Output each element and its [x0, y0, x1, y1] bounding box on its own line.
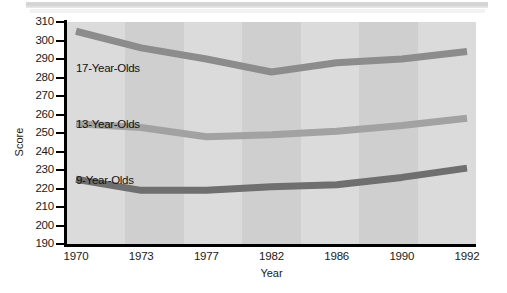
y-axis-tick [56, 77, 65, 79]
x-axis-title: Year [67, 267, 476, 279]
y-axis-tick [56, 114, 65, 116]
y-axis-tick [56, 58, 65, 60]
y-axis-tick-label: 280 [26, 71, 54, 83]
y-axis-tick-label: 250 [26, 126, 54, 138]
y-axis-tick [56, 151, 65, 153]
y-axis-tick-label: 260 [26, 108, 54, 120]
series-lines [67, 22, 476, 244]
y-axis-tick-label: 190 [26, 237, 54, 249]
y-axis-tick-label: 270 [26, 89, 54, 101]
x-axis-tick-label: 1990 [379, 250, 425, 262]
y-axis-tick-label: 230 [26, 163, 54, 175]
x-axis-tick-label: 1986 [314, 250, 360, 262]
y-axis-tick-label: 240 [26, 145, 54, 157]
y-axis-tick [56, 95, 65, 97]
plot-area: 17-Year-Olds 13-Year-Olds 9-Year-Olds [67, 22, 476, 244]
y-axis-tick [56, 225, 65, 227]
y-axis-tick-label: 210 [26, 200, 54, 212]
y-axis-tick-label: 200 [26, 219, 54, 231]
y-axis-tick [56, 169, 65, 171]
y-axis-title: Score [13, 112, 25, 172]
line-chart: 17-Year-Olds 13-Year-Olds 9-Year-Olds 31… [0, 14, 507, 293]
y-axis-tick-label: 290 [26, 52, 54, 64]
x-axis-tick-label: 1977 [183, 250, 229, 262]
x-axis-tick-labels: 1970197319771982198619901992 [67, 250, 476, 266]
x-axis-tick-label: 1982 [249, 250, 295, 262]
series-label-9-year-olds: 9-Year-Olds [76, 174, 134, 186]
y-axis-tick [56, 188, 65, 190]
y-axis-tick [56, 21, 65, 23]
x-axis-tick-label: 1992 [444, 250, 490, 262]
y-axis-tick [56, 40, 65, 42]
series-line-9-year-olds [76, 168, 467, 190]
page-top-strip [26, 2, 488, 8]
x-axis-tick-label: 1970 [53, 250, 99, 262]
y-axis-tick [56, 132, 65, 134]
page-top-strip-secondary [30, 9, 485, 13]
series-label-13-year-olds: 13-Year-Olds [76, 118, 140, 130]
y-axis-tick-labels: 310300290280270260250240230220210200190 [20, 14, 54, 254]
y-axis-tick-label: 220 [26, 182, 54, 194]
y-axis-tick-label: 300 [26, 34, 54, 46]
series-label-17-year-olds: 17-Year-Olds [76, 62, 140, 74]
x-axis-tick-label: 1973 [118, 250, 164, 262]
y-axis-tick [56, 206, 65, 208]
x-axis [64, 244, 476, 247]
chart-figure: 17-Year-Olds 13-Year-Olds 9-Year-Olds 31… [0, 0, 507, 293]
y-axis-tick-label: 310 [26, 15, 54, 27]
y-axis-tick [56, 243, 65, 245]
